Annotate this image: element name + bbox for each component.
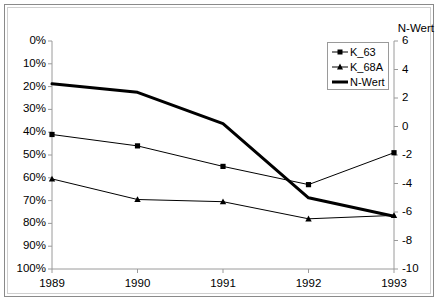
- legend-marker-thickline-icon: [331, 75, 349, 89]
- legend-label-1: K_68A: [350, 61, 383, 73]
- legend-item-1[interactable]: K_68A: [328, 60, 390, 74]
- tick-label: 50%: [8, 149, 46, 161]
- tick-label: 70%: [8, 195, 46, 207]
- data-series: [49, 84, 397, 222]
- legend-marker-triangle-icon: [331, 60, 349, 74]
- data-point-marker: [391, 150, 396, 155]
- data-point-marker: [306, 182, 311, 187]
- tick-label: 10%: [8, 58, 46, 70]
- tick-label: 90%: [8, 240, 46, 252]
- tick-label: 80%: [8, 217, 46, 229]
- chart-legend: K_63 K_68A N-Wert: [327, 42, 389, 90]
- tick-label: 60%: [8, 172, 46, 184]
- tick-label: 6: [402, 35, 432, 47]
- legend-item-0[interactable]: K_63: [328, 45, 390, 59]
- tick-label: 30%: [8, 103, 46, 115]
- legend-item-2[interactable]: N-Wert: [328, 75, 390, 89]
- legend-label-2: N-Wert: [350, 76, 385, 88]
- tick-label: -8: [402, 235, 432, 247]
- tick-label: 100%: [8, 263, 46, 275]
- data-point-marker: [49, 132, 54, 137]
- right-axis-title: N-Wert: [398, 22, 434, 34]
- legend-marker-square-icon: [331, 45, 349, 59]
- tick-label: 40%: [8, 126, 46, 138]
- tick-label: 0%: [8, 35, 46, 47]
- data-point-marker: [220, 164, 225, 169]
- legend-label-0: K_63: [350, 46, 376, 58]
- tick-label: 1992: [284, 278, 334, 290]
- tick-label: -6: [402, 206, 432, 218]
- tick-label: 1990: [113, 278, 163, 290]
- tick-label: 1993: [369, 278, 419, 290]
- tick-label: 0: [402, 121, 432, 133]
- tick-label: -4: [402, 178, 432, 190]
- tick-label: -2: [402, 149, 432, 161]
- tick-label: 1991: [198, 278, 248, 290]
- tick-label: 20%: [8, 81, 46, 93]
- data-point-marker: [49, 176, 55, 182]
- tick-label: 2: [402, 92, 432, 104]
- tick-label: -10: [402, 263, 432, 275]
- data-point-marker: [135, 143, 140, 148]
- tick-label: 4: [402, 64, 432, 76]
- tick-label: 1989: [27, 278, 77, 290]
